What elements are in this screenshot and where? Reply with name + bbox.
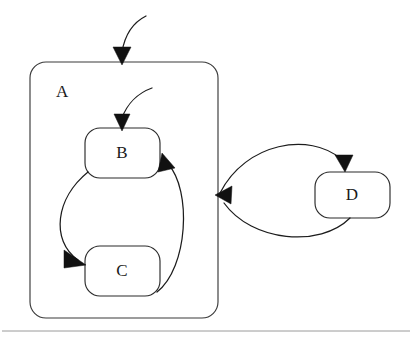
composite-state-a-label: A	[56, 82, 69, 101]
transition-initial-into-a[interactable]	[113, 16, 146, 65]
transition-initial-into-a-line	[122, 16, 146, 52]
diagram-canvas: A B C D	[0, 0, 412, 338]
state-c-label: C	[116, 261, 127, 280]
state-d-label: D	[346, 185, 358, 204]
state-d[interactable]: D	[315, 172, 390, 218]
state-b[interactable]: B	[85, 128, 160, 178]
state-b-label: B	[116, 143, 127, 162]
transition-a-to-d-arrowhead-icon	[335, 155, 353, 172]
state-c[interactable]: C	[85, 246, 160, 296]
statechart-diagram: A B C D	[0, 0, 412, 338]
